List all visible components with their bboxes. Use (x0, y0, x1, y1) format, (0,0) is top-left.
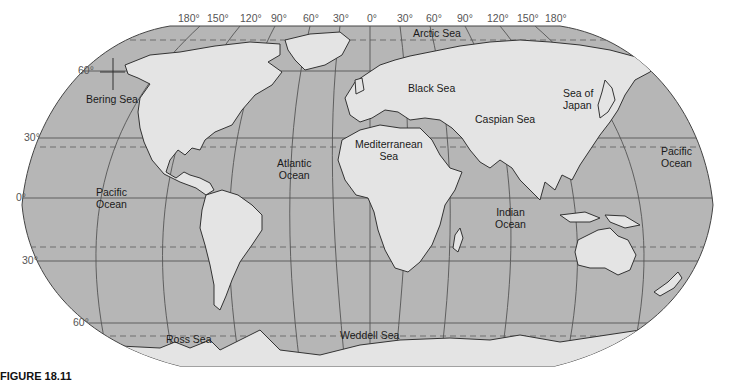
label-bering-sea: Bering Sea (86, 93, 138, 105)
lon-label: 60° (426, 12, 442, 24)
lat-label-60s: 60° (73, 316, 89, 328)
label-indian-ocean: Indian Ocean (495, 206, 526, 230)
lon-label: 90° (271, 12, 287, 24)
lon-label: 0° (367, 12, 377, 24)
label-indian-line1: Indian (495, 206, 526, 218)
label-pacific-west-line2: Ocean (96, 198, 127, 210)
lat-label-30s: 30° (22, 254, 38, 266)
label-black-sea: Black Sea (408, 82, 455, 94)
lat-label-60n: 60° (78, 64, 94, 76)
label-atlantic-ocean: Atlantic Ocean (277, 157, 311, 181)
label-ross-sea: Ross Sea (166, 333, 212, 345)
lon-label: 30° (333, 12, 349, 24)
label-mediterranean-line2: Sea (355, 150, 423, 162)
label-pacific-west-line1: Pacific (96, 186, 127, 198)
lat-label-eq: 0° (16, 191, 26, 203)
lon-label: 120° (487, 12, 509, 24)
lat-label-30n: 30° (24, 131, 40, 143)
label-sea-of-japan: Sea of Japan (563, 87, 593, 111)
lon-label: 180° (178, 12, 200, 24)
lon-label: 150° (207, 12, 229, 24)
lon-label: 90° (457, 12, 473, 24)
label-pacific-east-line1: Pacific (661, 145, 692, 157)
lon-label: 30° (397, 12, 413, 24)
label-indian-line2: Ocean (495, 218, 526, 230)
label-mediterranean-line1: Mediterranean (355, 138, 423, 150)
lon-label: 180° (545, 12, 567, 24)
label-sea-of-japan-line1: Sea of (563, 87, 593, 99)
lon-label: 120° (240, 12, 262, 24)
label-caspian-sea: Caspian Sea (475, 113, 535, 125)
label-pacific-ocean-east: Pacific Ocean (661, 145, 692, 169)
label-arctic-sea: Arctic Sea (413, 27, 461, 39)
lon-label: 60° (303, 12, 319, 24)
label-mediterranean-sea: Mediterranean Sea (355, 138, 423, 162)
label-sea-of-japan-line2: Japan (563, 99, 593, 111)
label-atlantic-line2: Ocean (277, 169, 311, 181)
label-pacific-ocean-west: Pacific Ocean (96, 186, 127, 210)
lon-label: 150° (517, 12, 539, 24)
figure-caption: FIGURE 18.11 (0, 370, 72, 382)
label-weddell-sea: Weddell Sea (340, 329, 399, 341)
label-atlantic-line1: Atlantic (277, 157, 311, 169)
label-pacific-east-line2: Ocean (661, 157, 692, 169)
